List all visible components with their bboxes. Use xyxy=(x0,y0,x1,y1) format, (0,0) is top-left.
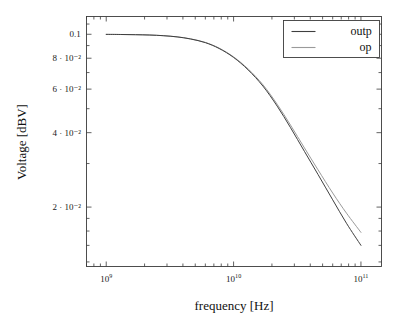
plot-canvas xyxy=(0,0,399,332)
y-tick-label: 6 · 10⁻² xyxy=(53,84,81,94)
series-line-op xyxy=(106,34,361,232)
y-tick-label: 0.1 xyxy=(70,29,81,39)
x-tick-label: 1010 xyxy=(226,273,241,284)
chart-figure: 109101010110.18 · 10⁻²6 · 10⁻²4 · 10⁻²2 … xyxy=(0,0,399,332)
y-tick-label: 8 · 10⁻² xyxy=(53,53,81,63)
legend-label-outp: outp xyxy=(351,24,372,39)
y-axis-title: Voltage [dBV] xyxy=(14,104,30,180)
legend-label-op: op xyxy=(360,40,372,55)
x-tick-label: 109 xyxy=(100,273,112,284)
y-tick-label: 2 · 10⁻² xyxy=(53,202,81,212)
y-tick-label: 4 · 10⁻² xyxy=(53,128,81,138)
x-tick-label: 1011 xyxy=(353,273,368,284)
series-line-outp xyxy=(106,34,361,245)
y-axis-ticks xyxy=(87,24,382,262)
x-axis-title: frequency [Hz] xyxy=(195,298,274,314)
